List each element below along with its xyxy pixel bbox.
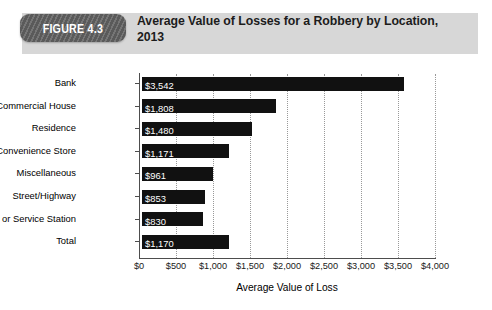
bar-chart: Average Value of Loss Bank$3,542Commerci… [0, 60, 492, 310]
bar: $961 [142, 167, 213, 181]
gridline [398, 74, 399, 258]
figure-title: Average Value of Losses for a Robbery by… [137, 14, 467, 45]
bar-row: Bank$3,542 [19, 74, 372, 97]
y-tick-mark [135, 128, 139, 129]
y-tick-mark [135, 241, 139, 242]
bar: $830 [142, 212, 203, 226]
y-tick-mark [135, 219, 139, 220]
y-tick-mark [135, 83, 139, 84]
bar-value-label: $853 [145, 193, 166, 204]
bar-row: Street/Highway$853 [19, 187, 372, 210]
bar-row: Commercial House$1,808 [19, 97, 372, 120]
figure-header: FIGURE 4.3 Average Value of Losses for a… [0, 0, 492, 60]
y-tick-mark [135, 196, 139, 197]
x-axis-title: Average Value of Loss [139, 282, 435, 293]
bar-value-label: $961 [145, 170, 166, 181]
bar-value-label: $3,542 [145, 80, 174, 91]
category-label: Residence [0, 122, 76, 133]
y-tick-mark [135, 173, 139, 174]
y-tick-mark [135, 151, 139, 152]
bar: $853 [142, 190, 205, 204]
bar: $1,171 [142, 144, 229, 158]
bar-row: Convenience Store$1,171 [19, 142, 372, 165]
category-label: Gas or Service Station [0, 213, 76, 224]
category-label: Bank [0, 77, 76, 88]
bar-row: Gas or Service Station$830 [19, 210, 372, 233]
category-label: Total [0, 235, 76, 246]
bar: $1,808 [142, 99, 276, 113]
bar-value-label: $830 [145, 216, 166, 227]
bar-row: Miscellaneous$961 [19, 164, 372, 187]
category-label: Miscellaneous [0, 167, 76, 178]
x-axis-line [139, 258, 436, 259]
bar-value-label: $1,480 [145, 125, 174, 136]
bar-row: Total$1,170 [19, 232, 372, 255]
category-label: Commercial House [0, 100, 76, 111]
category-label: Street/Highway [0, 190, 76, 201]
bar-value-label: $1,170 [145, 238, 174, 249]
figure-number-label: FIGURE 4.3 [43, 21, 104, 36]
bar-value-label: $1,808 [145, 103, 174, 114]
bar: $3,542 [142, 77, 404, 91]
bar-row: Residence$1,480 [19, 119, 372, 142]
bar-value-label: $1,171 [145, 148, 174, 159]
gridline [435, 74, 436, 258]
bar: $1,480 [142, 122, 252, 136]
y-tick-mark [135, 106, 139, 107]
category-label: Convenience Store [0, 145, 76, 156]
figure-number-badge: FIGURE 4.3 [20, 14, 126, 42]
bar: $1,170 [142, 235, 229, 249]
x-tick-label: $4,000 [413, 261, 457, 271]
